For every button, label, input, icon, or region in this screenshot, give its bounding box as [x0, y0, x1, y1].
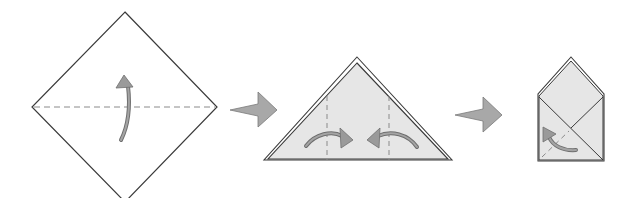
- step-2-triangle: [264, 57, 452, 160]
- right-arrow-icon: [455, 97, 502, 132]
- envelope-paper: [539, 61, 603, 160]
- step-1-diamond: [32, 12, 217, 198]
- right-arrow-icon: [230, 92, 277, 127]
- step-3-envelope: [538, 57, 604, 161]
- diamond-paper: [32, 12, 217, 198]
- origami-diagram: [0, 0, 637, 198]
- triangle-paper: [268, 63, 448, 159]
